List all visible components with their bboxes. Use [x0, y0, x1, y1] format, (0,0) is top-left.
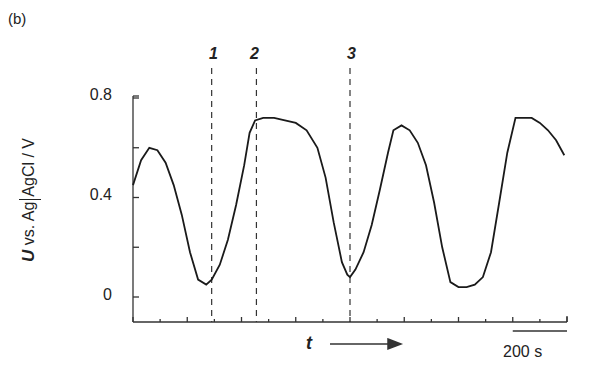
data-curve — [133, 118, 564, 287]
plot-area — [0, 0, 591, 366]
scale-bar-label: 200 s — [503, 343, 542, 361]
x-axis-label: t — [306, 333, 312, 354]
